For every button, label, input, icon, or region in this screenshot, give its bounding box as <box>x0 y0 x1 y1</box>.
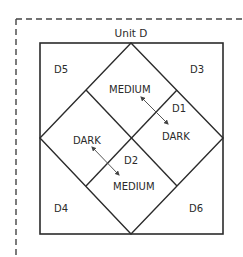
shade-label-right-dark: DARK <box>162 131 190 142</box>
shade-label-top-medium: MEDIUM <box>109 84 151 95</box>
shade-label-left-dark: DARK <box>73 135 101 146</box>
region-label-d2: D2 <box>124 155 138 166</box>
region-label-d3: D3 <box>190 64 204 75</box>
dark-to-medium-arrow-d2 <box>93 148 118 174</box>
unit-title: Unit D <box>115 27 148 39</box>
unit-d-diagram: Unit D D5 D3 D4 D6 D1 D2 MEDIUM DARK DAR… <box>0 0 243 257</box>
region-label-d1: D1 <box>172 103 186 114</box>
shade-label-bottom-medium: MEDIUM <box>113 181 155 192</box>
region-label-d4: D4 <box>54 203 68 214</box>
region-label-d5: D5 <box>54 64 68 75</box>
medium-to-dark-arrow-d1 <box>142 98 167 123</box>
region-label-d6: D6 <box>189 203 203 214</box>
